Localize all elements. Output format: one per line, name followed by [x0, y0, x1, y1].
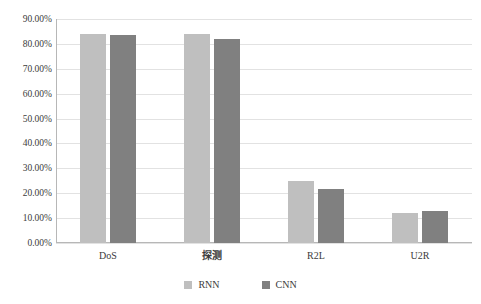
- legend-item-rnn[interactable]: RNN: [184, 280, 219, 290]
- plot-area: [56, 19, 472, 243]
- y-axis-tick-label: 80.00%: [0, 39, 52, 49]
- legend-swatch-cnn-icon: [262, 281, 270, 289]
- bar-rnn-1: [80, 34, 106, 243]
- legend-item-cnn[interactable]: CNN: [262, 280, 297, 290]
- y-axis-tick-label: 30.00%: [0, 163, 52, 173]
- y-axis-tick-label: 60.00%: [0, 89, 52, 99]
- y-axis-tick-label: 90.00%: [0, 14, 52, 24]
- y-axis-tick-label: 40.00%: [0, 138, 52, 148]
- bar-rnn-4: [392, 213, 418, 243]
- x-axis-label-3: R2L: [266, 250, 366, 262]
- bar-cnn-2: [214, 39, 240, 243]
- x-axis-label-4: U2R: [370, 250, 470, 262]
- x-axis-label-2: 探测: [162, 250, 262, 262]
- bar-series-layer: [56, 19, 472, 243]
- bar-rnn-2: [184, 34, 210, 243]
- legend-label: CNN: [276, 280, 297, 290]
- bar-cnn-4: [422, 211, 448, 243]
- legend-label: RNN: [198, 280, 219, 290]
- legend-swatch-rnn-icon: [184, 281, 192, 289]
- x-axis-label-1: DoS: [58, 250, 158, 262]
- y-axis-tick-label: 0.00%: [0, 238, 52, 248]
- bar-cnn-3: [318, 189, 344, 243]
- bar-cnn-1: [110, 35, 136, 243]
- gridline: [56, 243, 472, 244]
- bar-chart: 0.00%10.00%20.00%30.00%40.00%50.00%60.00…: [0, 0, 481, 304]
- y-axis-tick-label: 10.00%: [0, 213, 52, 223]
- bar-rnn-3: [288, 181, 314, 243]
- y-axis-tick-label: 20.00%: [0, 188, 52, 198]
- y-axis-tick-label: 70.00%: [0, 64, 52, 74]
- y-axis-tick-label: 50.00%: [0, 114, 52, 124]
- chart-legend: RNNCNN: [0, 280, 481, 290]
